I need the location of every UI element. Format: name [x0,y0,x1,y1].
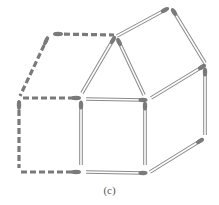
match-bottom-horizontal [86,171,148,176]
head-top-left [53,32,63,36]
match-right-vertical [203,68,207,136]
dashed-top [55,34,114,35]
match-center-left-vertical [79,101,83,166]
match-roof-right [115,37,144,95]
match-head-icon [79,101,83,110]
dashed-upper-left-slant [20,37,48,96]
matchstick-figure [0,0,219,205]
match-top-right [170,7,205,63]
match-bottom-slant [150,137,205,172]
match-middle-slant [151,63,207,98]
match-head-icon [203,68,207,77]
match-head-icon [143,102,147,111]
match-roof-left [82,35,117,93]
match-center-right-vertical [143,102,147,166]
head-mid-left [71,96,81,100]
figure-caption: (c) [0,184,219,196]
head-bottom-left [71,170,81,174]
head-left-vertical [17,100,21,110]
match-mid-horizontal [86,98,148,103]
matchstick-house-diagram: (c) [0,0,219,205]
match-top-slant [117,6,170,36]
